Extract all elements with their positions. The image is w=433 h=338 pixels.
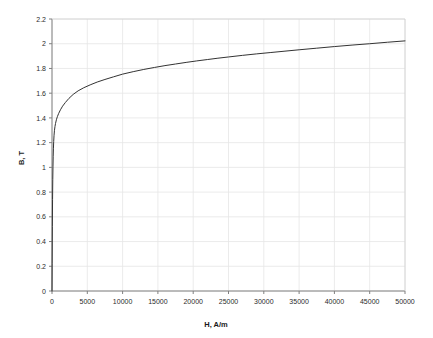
- y-tick-label: 2.2: [36, 16, 46, 23]
- x-tick-label: 15000: [148, 298, 168, 305]
- x-tick-label: 10000: [113, 298, 133, 305]
- x-tick-label: 25000: [219, 298, 239, 305]
- y-tick-label: 1.6: [36, 90, 46, 97]
- y-tick-label: 2: [42, 40, 46, 47]
- x-tick-label: 50000: [395, 298, 415, 305]
- x-tick-label: 5000: [80, 298, 96, 305]
- chart-background: [0, 0, 433, 338]
- x-tick-label: 0: [50, 298, 54, 305]
- y-tick-label: 1.2: [36, 139, 46, 146]
- bh-magnetization-chart: 0500010000150002000025000300003500040000…: [0, 0, 433, 338]
- y-tick-label: 1.4: [36, 115, 46, 122]
- y-tick-label: 0.4: [36, 238, 46, 245]
- x-tick-label: 40000: [325, 298, 345, 305]
- y-tick-label: 0.8: [36, 189, 46, 196]
- y-tick-label: 0: [42, 288, 46, 295]
- x-tick-label: 45000: [360, 298, 380, 305]
- chart-container: 0500010000150002000025000300003500040000…: [0, 0, 433, 338]
- y-axis-title: B, T: [17, 151, 26, 166]
- y-tick-label: 1.8: [36, 65, 46, 72]
- x-axis-title: H, A/m: [204, 320, 228, 329]
- y-tick-label: 1: [42, 164, 46, 171]
- x-tick-label: 30000: [254, 298, 274, 305]
- y-tick-label: 0.6: [36, 213, 46, 220]
- x-tick-label: 20000: [183, 298, 203, 305]
- y-tick-label: 0.2: [36, 263, 46, 270]
- x-tick-label: 35000: [289, 298, 309, 305]
